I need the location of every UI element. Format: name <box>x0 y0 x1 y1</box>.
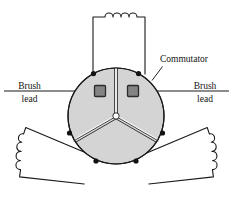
coil-top-body <box>93 13 145 74</box>
brush-lead-left-label-line1: Brush <box>18 81 41 91</box>
connection-node-left-upper <box>67 130 72 135</box>
connection-node-top-right <box>136 71 141 76</box>
commutator-hub <box>113 113 119 119</box>
commutator-label: Commutator <box>160 54 209 64</box>
connection-node-right-upper <box>160 130 165 135</box>
brush-lead-left-label-line2: lead <box>22 94 38 104</box>
connection-node-left-lower <box>93 158 98 163</box>
coil-top <box>93 13 145 74</box>
brush-left[interactable] <box>95 86 106 97</box>
brush-right[interactable] <box>128 86 139 97</box>
commutator-leader-line <box>152 67 163 81</box>
commutator-disc <box>68 68 164 164</box>
brush-lead-right-label-line2: lead <box>197 94 213 104</box>
connection-node-right-lower <box>133 158 138 163</box>
brush-lead-right-label-line1: Brush <box>194 81 217 91</box>
commutator-diagram: Commutator Brush lead Brush lead <box>0 0 233 205</box>
connection-node-top-left <box>91 71 96 76</box>
